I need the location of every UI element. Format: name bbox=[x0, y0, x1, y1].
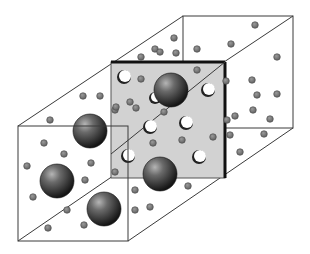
small-particle bbox=[82, 177, 89, 184]
small-particle bbox=[228, 41, 235, 48]
small-particle bbox=[179, 137, 186, 144]
void-hole bbox=[119, 70, 131, 82]
small-particle bbox=[210, 134, 217, 141]
small-particle bbox=[47, 117, 54, 124]
small-particle bbox=[132, 207, 139, 214]
small-particle bbox=[194, 46, 201, 53]
void-hole bbox=[203, 83, 215, 95]
small-particle bbox=[173, 50, 180, 57]
large-sphere bbox=[154, 73, 188, 107]
small-particle bbox=[80, 93, 87, 100]
void-hole bbox=[181, 116, 193, 128]
small-particle bbox=[185, 183, 192, 190]
small-particle bbox=[227, 132, 234, 139]
small-particle bbox=[138, 54, 145, 61]
small-particle bbox=[237, 149, 244, 156]
void-hole bbox=[145, 120, 157, 132]
small-particle bbox=[249, 77, 256, 84]
small-particle bbox=[232, 113, 239, 120]
small-particle bbox=[194, 67, 201, 74]
void-hole bbox=[194, 150, 206, 162]
small-particle bbox=[45, 225, 52, 232]
small-particle bbox=[254, 92, 261, 99]
small-particle bbox=[274, 54, 281, 61]
small-particle bbox=[252, 22, 259, 29]
diagram-canvas bbox=[0, 0, 310, 254]
small-particle bbox=[41, 140, 48, 147]
large-sphere bbox=[143, 157, 177, 191]
small-particle bbox=[81, 222, 88, 229]
small-particle bbox=[267, 116, 274, 123]
small-particle bbox=[127, 99, 134, 106]
small-particle bbox=[274, 91, 281, 98]
small-particle bbox=[171, 35, 178, 42]
small-particle bbox=[224, 117, 231, 124]
large-sphere bbox=[87, 192, 121, 226]
small-particle bbox=[132, 187, 139, 194]
small-particle bbox=[261, 131, 268, 138]
small-particle bbox=[64, 207, 71, 214]
particle-box-diagram bbox=[0, 0, 310, 254]
large-sphere bbox=[40, 164, 74, 198]
small-particle bbox=[97, 93, 104, 100]
small-particle bbox=[150, 140, 157, 147]
void-hole bbox=[123, 149, 135, 161]
small-particle bbox=[113, 104, 120, 111]
small-particle bbox=[112, 169, 119, 176]
large-sphere bbox=[73, 114, 107, 148]
small-particle bbox=[147, 204, 154, 211]
small-particle bbox=[223, 78, 230, 85]
small-particle bbox=[157, 49, 164, 56]
small-particle bbox=[133, 105, 140, 112]
small-particle bbox=[24, 163, 31, 170]
small-particle bbox=[30, 194, 37, 201]
small-particle bbox=[61, 151, 68, 158]
small-particle bbox=[161, 109, 168, 116]
small-particle bbox=[138, 76, 145, 83]
small-particle bbox=[250, 107, 257, 114]
small-particle bbox=[88, 160, 95, 167]
